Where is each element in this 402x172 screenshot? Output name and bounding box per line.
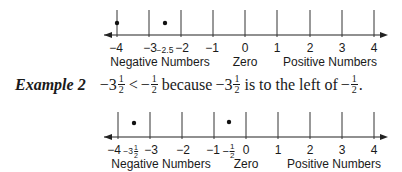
region-label-zero: Zero bbox=[234, 158, 259, 170]
lhs-whole: −3 bbox=[215, 76, 232, 94]
tick-label: 0 bbox=[243, 144, 250, 156]
tick-label: −1 bbox=[205, 42, 219, 54]
because-text: because bbox=[162, 76, 213, 94]
tick-label: −1 bbox=[206, 144, 220, 156]
tick-label: 1 bbox=[274, 42, 281, 54]
number-line-1: −4 −3 −2.5 −2 −1 0 1 2 3 4 Negative Numb… bbox=[0, 0, 402, 70]
region-label-negative: Negative Numbers bbox=[111, 158, 210, 170]
fraction: 12 bbox=[151, 74, 158, 95]
region-label-positive: Positive Numbers bbox=[287, 158, 381, 170]
neg-sign: − bbox=[341, 76, 350, 94]
tick-label: 4 bbox=[371, 42, 378, 54]
region-label-zero: Zero bbox=[233, 56, 258, 68]
lhs-whole: −3 bbox=[100, 76, 117, 94]
region-label-positive: Positive Numbers bbox=[283, 56, 377, 68]
arrow-left-icon bbox=[104, 134, 112, 140]
arrow-right-icon bbox=[380, 32, 388, 38]
less-than-sign: < bbox=[129, 76, 138, 94]
point-minus-4 bbox=[115, 21, 119, 25]
number-line-2: −4 −3 12 −3 −2 −1 − 12 0 1 2 3 4 Negativ… bbox=[0, 102, 402, 172]
tick-label: 3 bbox=[339, 144, 346, 156]
example-2-statement: Example 2 −3 12 < − 12 because −3 12 is … bbox=[15, 74, 363, 95]
tick-label: 2 bbox=[307, 42, 314, 54]
tick-label: 4 bbox=[371, 144, 378, 156]
arrow-right-icon bbox=[380, 134, 388, 140]
tick-label: 0 bbox=[242, 42, 249, 54]
tick-label: −4 bbox=[107, 144, 121, 156]
arrow-left-icon bbox=[104, 32, 112, 38]
tick-label: −3 bbox=[144, 144, 158, 156]
fraction: 12 bbox=[351, 74, 358, 95]
point-minus-3-5 bbox=[132, 121, 136, 125]
tick-label: 1 bbox=[275, 144, 282, 156]
tick-label: −4 bbox=[109, 42, 123, 54]
is-left-of-text: is to the left of bbox=[244, 76, 337, 94]
fraction: 12 bbox=[118, 74, 125, 95]
tick-label: 2 bbox=[307, 144, 314, 156]
tick-label: 3 bbox=[339, 42, 346, 54]
neg-sign: − bbox=[141, 76, 150, 94]
period: . bbox=[359, 76, 363, 94]
point-minus-2-5 bbox=[163, 21, 167, 25]
point-minus-0-5 bbox=[227, 120, 231, 124]
example-label: Example 2 bbox=[15, 76, 86, 94]
tick-label: −2 bbox=[175, 42, 189, 54]
fraction: 12 bbox=[233, 74, 240, 95]
region-label-negative: Negative Numbers bbox=[110, 56, 209, 68]
extra-label: −2.5 bbox=[157, 46, 174, 55]
tick-label: −3 bbox=[143, 42, 157, 54]
tick-label: −2 bbox=[176, 144, 190, 156]
